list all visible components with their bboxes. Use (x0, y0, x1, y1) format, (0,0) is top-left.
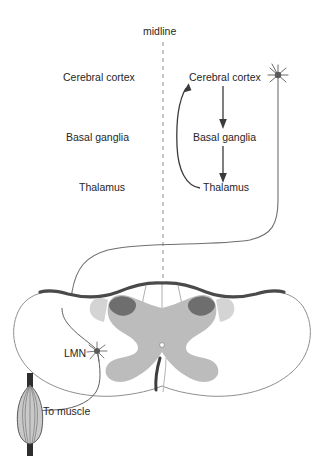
diagram-canvas (0, 0, 323, 467)
label-to-muscle: To muscle (43, 406, 90, 417)
central-canal (160, 343, 165, 348)
label-right-cerebral-cortex: Cerebral cortex (189, 72, 261, 83)
label-left-cerebral-cortex: Cerebral cortex (63, 72, 135, 83)
skeletal-muscle (17, 373, 42, 456)
label-lmn: LMN (64, 348, 86, 359)
label-left-thalamus: Thalamus (79, 182, 125, 193)
label-right-thalamus: Thalamus (203, 182, 249, 193)
arrow-cortex-to-basal-ganglia (219, 86, 227, 129)
label-right-basal-ganglia: Basal ganglia (193, 132, 256, 143)
arrow-basal-ganglia-to-thalamus (219, 146, 227, 183)
midline-label: midline (143, 26, 176, 37)
motor-pathway-diagram: midline Cerebral cortex Basal ganglia Th… (0, 0, 323, 467)
label-left-basal-ganglia: Basal ganglia (66, 132, 129, 143)
